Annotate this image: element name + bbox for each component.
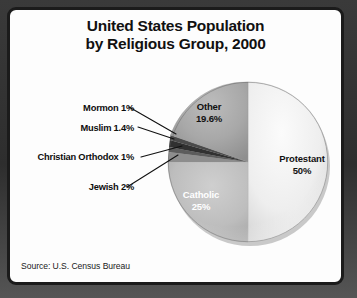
pie-label-protestant: Protestant 50% — [267, 153, 337, 176]
pie-label-catholic-value: 25% — [171, 201, 231, 213]
pie-label-other: Other 19.6% — [181, 101, 237, 124]
callout-label-jewish: Jewish 2% — [14, 182, 134, 192]
pie-label-other-name: Other — [197, 101, 222, 112]
chart-figure: United States Population by Religious Gr… — [0, 0, 357, 298]
pie-label-protestant-name: Protestant — [279, 153, 324, 164]
source-note: Source: U.S. Census Bureau — [21, 261, 130, 271]
leader-line-muslim — [138, 127, 174, 139]
pie-chart: Other 19.6% Protestant 50% Catholic 25% — [10, 10, 341, 282]
callout-label-muslim: Muslim 1.4% — [14, 123, 134, 133]
callout-label-christian-orthodox: Christian Orthodox 1% — [14, 152, 134, 162]
pie-label-protestant-value: 50% — [267, 165, 337, 177]
leader-line-mormon — [129, 107, 176, 134]
chart-panel: United States Population by Religious Gr… — [7, 7, 344, 285]
pie-label-catholic: Catholic 25% — [171, 189, 231, 212]
callout-label-mormon: Mormon 1% — [14, 103, 134, 113]
pie-label-catholic-name: Catholic — [183, 189, 219, 200]
pie-label-other-value: 19.6% — [181, 113, 237, 125]
pie-chart-svg — [10, 10, 341, 282]
